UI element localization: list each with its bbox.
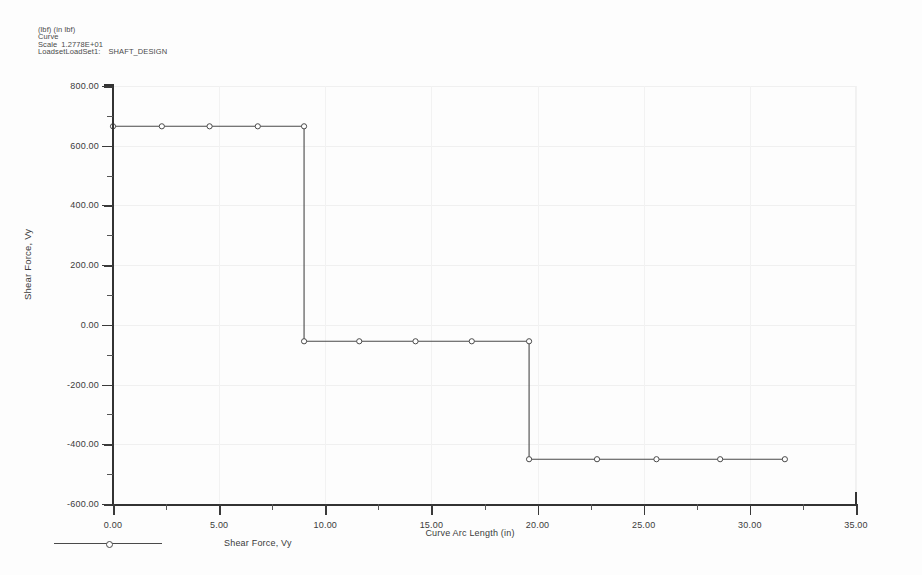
series-data-point [526, 339, 531, 344]
y-tick-dash [102, 146, 110, 147]
y-axis-minor-tick [107, 474, 113, 475]
series-data-point [469, 339, 474, 344]
y-tick-dash [102, 444, 110, 445]
y-axis-title: Shear Force, Vy [22, 229, 33, 300]
x-axis-title: Curve Arc Length (in) [425, 528, 514, 538]
x-axis-minor-tick [378, 504, 379, 510]
x-axis-tick-label: 5.00 [210, 520, 228, 530]
header-loadset: LoadsetLoadSet1:SHAFT_DESIGN [38, 48, 167, 55]
x-axis-tick [538, 504, 540, 515]
series-canvas [113, 86, 856, 504]
legend-label-shear-force: Shear Force, Vy [224, 538, 292, 548]
y-axis-tick-label: 400.00 [70, 200, 99, 210]
x-axis-tick-label: 25.00 [632, 520, 656, 530]
series-data-point [301, 124, 306, 129]
x-axis-tick [431, 504, 433, 515]
x-axis-tick [113, 504, 115, 515]
x-axis-tick-label: 30.00 [738, 520, 762, 530]
x-axis-minor-tick [272, 504, 273, 510]
y-axis-tick-label: 600.00 [70, 141, 99, 151]
y-tick-dash [102, 504, 110, 505]
y-axis-minor-tick [107, 355, 113, 356]
y-axis-minor-tick [107, 235, 113, 236]
x-axis-minor-tick [803, 504, 804, 510]
x-axis-tick [750, 504, 752, 515]
chart-page: (lbf) (in lbf) Curve Scale1.2778E+01 Loa… [0, 0, 922, 575]
chart-legend: Shear Force, Vy [54, 538, 292, 548]
y-axis-tick-label: -600.00 [67, 499, 99, 509]
x-axis-minor-tick [485, 504, 486, 510]
x-axis-minor-tick [591, 504, 592, 510]
series-data-point [654, 457, 659, 462]
y-axis-tick-label: 800.00 [70, 81, 99, 91]
series-data-point [301, 339, 306, 344]
x-axis-tick-label: 0.00 [104, 520, 122, 530]
chart-header: (lbf) (in lbf) Curve Scale1.2778E+01 Loa… [38, 26, 167, 56]
plot-area [113, 86, 856, 504]
series-data-point [255, 124, 260, 129]
x-axis-tick [644, 504, 646, 515]
y-axis-tick-label: -400.00 [67, 439, 99, 449]
y-axis-minor-tick [107, 116, 113, 117]
y-axis-line: -600.00-400.00-200.000.00200.00400.00600… [112, 84, 114, 506]
gridline-vertical [856, 86, 857, 504]
legend-marker-icon [106, 541, 113, 548]
y-tick-dash [102, 265, 110, 266]
x-axis-end-cap [855, 492, 857, 506]
x-axis-tick [219, 504, 221, 515]
series-data-point [526, 457, 531, 462]
series-data-point [413, 339, 418, 344]
x-axis-tick [325, 504, 327, 515]
x-axis-tick-label: 20.00 [526, 520, 550, 530]
x-axis-tick-label: 10.00 [314, 520, 338, 530]
y-tick-dash [102, 205, 110, 206]
series-data-point [782, 457, 787, 462]
y-tick-dash [102, 385, 110, 386]
x-axis-tick-label: 35.00 [844, 520, 868, 530]
series-data-point [207, 124, 212, 129]
y-axis-minor-tick [107, 414, 113, 415]
y-axis-minor-tick [107, 295, 113, 296]
series-data-point [357, 339, 362, 344]
y-axis-tick-label: 0.00 [81, 320, 99, 330]
legend-swatch-shear-force [54, 538, 162, 548]
header-loadset-label: LoadsetLoadSet1 [38, 47, 98, 56]
header-loadset-sep: : [98, 47, 100, 56]
y-axis-tick-label: -200.00 [67, 380, 99, 390]
y-axis-minor-tick [107, 176, 113, 177]
series-data-point [718, 457, 723, 462]
series-line-shear-force [113, 126, 785, 459]
y-axis-tick-label: 200.00 [70, 260, 99, 270]
header-loadset-value: SHAFT_DESIGN [109, 47, 168, 56]
y-tick-dash [102, 86, 110, 87]
x-axis-minor-tick [697, 504, 698, 510]
x-axis-line: 0.005.0010.0015.0020.0025.0030.0035.00 [112, 504, 857, 506]
x-axis-minor-tick [166, 504, 167, 510]
series-data-point [159, 124, 164, 129]
y-tick-dash [102, 325, 110, 326]
series-data-point [594, 457, 599, 462]
